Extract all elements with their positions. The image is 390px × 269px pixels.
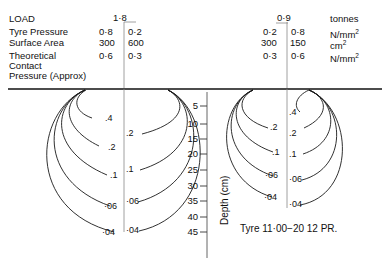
bulb-cluster-3 <box>227 90 273 197</box>
bulb-label-c4-0.04: ·04 <box>289 199 302 209</box>
bulb-label-c1-0.2: .2 <box>108 142 116 152</box>
bulb-label-c1-0.06: ·06 <box>104 201 117 211</box>
bulb-label-c2-0.04: ·04 <box>126 225 139 235</box>
bulb-label-c1-0.04: ·04 <box>102 227 115 237</box>
pressure-bulb-diagram: LOAD Tyre Pressure Surface Area Theoreti… <box>0 0 390 269</box>
bulb-cluster-4 <box>296 90 342 205</box>
bulb-c1-isobar-0.1 <box>62 90 107 175</box>
depth-label-15: 15 <box>176 133 198 144</box>
bulb-label-c1-0.4: .4 <box>105 113 113 123</box>
bulb-c1-isobar-0.2 <box>69 90 99 146</box>
bulb-label-c3-0.2: .2 <box>270 122 278 132</box>
bulb-c2-isobar-0.2 <box>142 90 180 134</box>
depth-label-5: 5 <box>176 100 198 111</box>
depth-label-30: 30 <box>176 180 198 191</box>
depth-label-20: 20 <box>176 148 198 159</box>
bulb-c4-isobar-0.2 <box>304 90 323 128</box>
bulb-c4-isobar-0.04 <box>300 90 342 205</box>
tyre-spec-caption: Tyre 11·00−20 12 PR. <box>240 223 337 234</box>
bulb-c3-isobar-0.1 <box>236 90 273 152</box>
depth-label-25: 25 <box>176 164 198 175</box>
bulb-label-c1-0.1: .1 <box>110 170 118 180</box>
bulb-label-c2-0.2: .2 <box>126 128 134 138</box>
bulb-label-c4-0.2: .2 <box>289 128 297 138</box>
depth-axis-title: Depth (cm) <box>219 176 230 225</box>
depth-label-40: 40 <box>176 211 198 222</box>
bulb-c3-isobar-0.2 <box>242 90 268 128</box>
bulb-c3-isobar-0.04 <box>227 90 272 197</box>
bulb-cluster-2 <box>138 90 200 231</box>
bulb-c4-isobar-0.06 <box>302 90 337 180</box>
bulb-c1-isobar-0.4 <box>77 90 92 118</box>
bulb-c4-isobar-0.1 <box>303 90 331 154</box>
depth-label-45: 45 <box>176 226 198 237</box>
bulb-label-c3-0.1: .1 <box>272 147 280 157</box>
bulb-label-c2-0.1: .1 <box>126 164 134 174</box>
bulb-label-c4-0.1: .1 <box>289 149 297 159</box>
bulb-label-c2-0.06: ·06 <box>126 196 139 206</box>
depth-label-35: 35 <box>176 195 198 206</box>
bulb-label-c4-0.4: .4 <box>289 107 297 117</box>
depth-label-10: 10 <box>176 118 198 129</box>
bulb-label-c3-0.04: ·04 <box>264 192 277 202</box>
bulb-label-c3-0.06: ·06 <box>265 170 278 180</box>
bulb-c2-isobar-0.04 <box>139 90 200 231</box>
bulb-c4-isobar-0.4 <box>296 90 309 112</box>
bulb-label-c4-0.06: ·06 <box>289 174 302 184</box>
